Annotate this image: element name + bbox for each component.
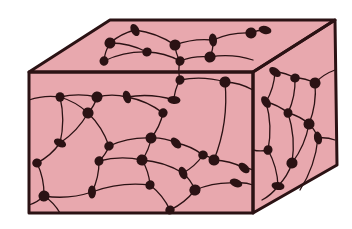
node xyxy=(56,92,65,102)
network-block-diagram xyxy=(0,0,352,229)
block-illustration xyxy=(0,0,352,229)
